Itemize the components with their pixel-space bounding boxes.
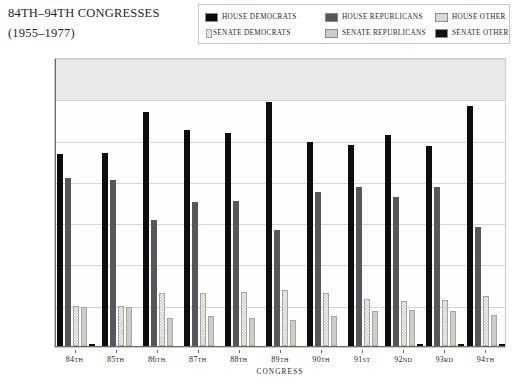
bar-senate-republicans[interactable] <box>450 311 456 346</box>
bar-house-democrats[interactable] <box>184 130 190 346</box>
bar-senate-republicans[interactable] <box>167 318 173 346</box>
bar-group <box>384 59 425 346</box>
bar-senate-republicans[interactable] <box>208 316 214 346</box>
bar-house-republicans[interactable] <box>315 192 321 346</box>
legend-label-house-democrats: HOUSE DEMOCRATS <box>222 13 297 21</box>
x-tick-mark <box>157 350 158 353</box>
x-tick-label: 87TH <box>189 355 206 364</box>
bar-group <box>219 59 260 346</box>
bar-group <box>302 59 343 346</box>
x-tick-label: 94TH <box>477 355 494 364</box>
x-tick-mark <box>198 350 199 353</box>
bar-house-democrats[interactable] <box>266 102 272 346</box>
x-tick-label: 89TH <box>271 355 288 364</box>
bar-house-democrats[interactable] <box>225 133 231 346</box>
plot-area <box>54 58 506 348</box>
legend-label-senate-democrats: SENATE DEMOCRATS <box>213 29 291 37</box>
x-tick-mark <box>321 350 322 353</box>
bar-group <box>178 59 219 346</box>
bar-senate-democrats[interactable] <box>483 296 489 346</box>
bar-house-democrats[interactable] <box>307 142 313 346</box>
bar-group <box>260 59 301 346</box>
bar-senate-democrats[interactable] <box>401 301 407 346</box>
bar-house-republicans[interactable] <box>434 187 440 346</box>
bar-group <box>343 59 384 346</box>
bar-house-democrats[interactable] <box>467 106 473 346</box>
legend-swatch-house-republicans <box>325 13 338 22</box>
bar-house-republicans[interactable] <box>192 202 198 347</box>
x-tick-mark <box>444 350 445 353</box>
x-tick-label: 84TH <box>66 355 83 364</box>
legend-item-senate-other: SENATE OTHER <box>435 29 505 38</box>
bar-house-democrats[interactable] <box>57 154 63 346</box>
x-tick-label: 86TH <box>148 355 165 364</box>
bar-house-republicans[interactable] <box>274 230 280 346</box>
bar-house-republicans[interactable] <box>151 220 157 346</box>
bar-senate-democrats[interactable] <box>364 299 370 346</box>
bar-group <box>55 59 96 346</box>
x-tick-label: 91ST <box>354 355 370 364</box>
x-tick-label: 92ND <box>394 355 412 364</box>
legend-swatch-house-democrats <box>205 13 218 22</box>
bar-senate-democrats[interactable] <box>282 290 288 346</box>
bar-house-republicans[interactable] <box>393 197 399 346</box>
x-tick-mark <box>75 350 76 353</box>
bar-house-republicans[interactable] <box>356 187 362 346</box>
x-tick-label: 93RD <box>435 355 453 364</box>
legend-swatch-senate-democrats <box>206 29 212 38</box>
chart-title-block: 84TH–94TH CONGRESSES (1955–1977) <box>8 6 198 41</box>
bar-house-republicans[interactable] <box>65 178 71 346</box>
chart-title-line-2: (1955–1977) <box>8 26 198 41</box>
legend-item-house-republicans: HOUSE REPUBLICANS <box>325 13 435 22</box>
x-tick-mark <box>485 350 486 353</box>
bar-group <box>96 59 137 346</box>
chart-legend: HOUSE DEMOCRATS HOUSE REPUBLICANS HOUSE … <box>198 4 510 44</box>
bar-senate-democrats[interactable] <box>118 306 124 346</box>
bar-senate-democrats[interactable] <box>200 293 206 346</box>
bar-group <box>425 59 466 346</box>
bar-house-republicans[interactable] <box>233 201 239 346</box>
legend-item-house-democrats: HOUSE DEMOCRATS <box>205 13 325 22</box>
legend-item-house-other: HOUSE OTHER <box>435 13 505 22</box>
bar-senate-democrats[interactable] <box>73 306 79 346</box>
legend-swatch-senate-republicans <box>325 29 338 38</box>
legend-item-senate-republicans: SENATE REPUBLICANS <box>325 29 435 38</box>
bar-groups <box>55 59 505 347</box>
x-tick-mark <box>239 350 240 353</box>
bar-house-democrats[interactable] <box>426 146 432 346</box>
bar-senate-democrats[interactable] <box>442 300 448 346</box>
bar-senate-democrats[interactable] <box>323 293 329 346</box>
bar-house-democrats[interactable] <box>348 145 354 346</box>
x-tick-label: 85TH <box>107 355 124 364</box>
x-tick-mark <box>280 350 281 353</box>
bar-house-democrats[interactable] <box>102 153 108 346</box>
bar-senate-republicans[interactable] <box>372 311 378 347</box>
plot-wrapper <box>54 58 506 348</box>
bar-house-democrats[interactable] <box>385 135 391 346</box>
bar-house-republicans[interactable] <box>110 180 116 346</box>
x-tick-mark <box>362 350 363 353</box>
bar-senate-republicans[interactable] <box>81 307 87 346</box>
bar-house-republicans[interactable] <box>475 227 481 346</box>
bar-senate-republicans[interactable] <box>331 316 337 346</box>
bar-senate-republicans[interactable] <box>290 320 296 346</box>
x-tick-mark <box>403 350 404 353</box>
bar-senate-republicans[interactable] <box>126 307 132 346</box>
legend-label-house-other: HOUSE OTHER <box>452 13 506 21</box>
x-tick-label: 90TH <box>312 355 329 364</box>
bar-senate-republicans[interactable] <box>409 310 415 346</box>
x-axis-labels: 84TH85TH86TH87TH88TH89TH90TH91ST92ND93RD… <box>54 350 506 364</box>
x-tick-mark <box>116 350 117 353</box>
chart-title-line-1: 84TH–94TH CONGRESSES <box>8 6 198 21</box>
bar-senate-democrats[interactable] <box>159 293 165 346</box>
legend-swatch-senate-other <box>435 29 448 38</box>
bar-senate-democrats[interactable] <box>241 292 247 346</box>
bar-group <box>137 59 178 346</box>
legend-label-senate-republicans: SENATE REPUBLICANS <box>342 29 426 37</box>
bar-senate-republicans[interactable] <box>491 315 497 346</box>
y-axis-line <box>55 59 56 347</box>
bar-house-democrats[interactable] <box>143 112 149 346</box>
legend-row-house: HOUSE DEMOCRATS HOUSE REPUBLICANS HOUSE … <box>205 9 505 25</box>
legend-item-senate-democrats: SENATE DEMOCRATS <box>205 29 325 38</box>
bar-senate-republicans[interactable] <box>249 318 255 346</box>
